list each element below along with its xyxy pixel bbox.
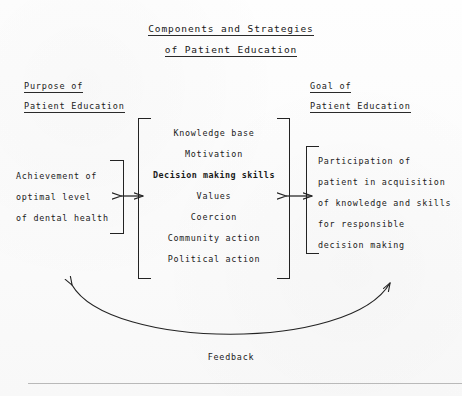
components-box-line: Knowledge base [148,123,280,144]
goal-heading: Goal of Patient Education [310,76,411,116]
purpose-box-line: optimal level [16,187,124,208]
goal-heading-line-1: Goal of [310,76,411,96]
goal-box-line: Participation of [318,151,458,172]
bottom-divider [28,383,462,384]
components-box-line: Values [148,186,280,207]
purpose-box-line: of dental health [16,208,124,229]
goal-heading-line-2: Patient Education [310,96,411,116]
purpose-heading-line-1: Purpose of [24,76,125,96]
title-line-2: of Patient Education [0,39,462,60]
components-box: Knowledge base Motivation Decision makin… [148,123,280,270]
goal-box-line: for responsible [318,214,458,235]
components-box-line: Motivation [148,144,280,165]
components-box-line: Decision making skills [148,165,280,186]
goal-box-line: of knowledge and skills [318,193,458,214]
page-title: Components and Strategies of Patient Edu… [0,18,462,60]
purpose-heading-line-2: Patient Education [24,96,125,116]
purpose-box-line: Achievement of [16,166,124,187]
purpose-heading: Purpose of Patient Education [24,76,125,116]
components-box-line: Political action [148,249,280,270]
diagram-page: Components and Strategies of Patient Edu… [0,0,462,396]
components-box-line: Community action [148,228,280,249]
goal-box-line: patient in acquisition [318,172,458,193]
feedback-arrow [72,283,390,334]
goal-box-line: decision making [318,235,458,256]
title-line-1: Components and Strategies [0,18,462,39]
components-box-line: Coercion [148,207,280,228]
feedback-label: Feedback [0,352,462,362]
goal-box: Participation of patient in acquisition … [318,151,458,256]
purpose-box: Achievement of optimal level of dental h… [16,166,124,229]
